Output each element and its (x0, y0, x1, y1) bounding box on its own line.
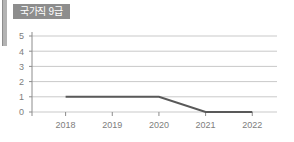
x-axis-tick-label: 2018 (56, 120, 76, 130)
data-series-line (66, 97, 253, 112)
page-title: 국가직 9급 (13, 4, 70, 19)
chart-panel: 국가직 9급 012345 20182019202020212022 (0, 0, 294, 142)
x-axis-tick-label: 2021 (196, 120, 216, 130)
x-axis-labels: 20182019202020212022 (56, 120, 263, 130)
y-axis-tick-label: 4 (19, 47, 24, 57)
x-axis-tick-label: 2022 (242, 120, 262, 130)
line-chart-svg: 012345 20182019202020212022 (0, 24, 294, 142)
y-axis-tick-label: 0 (19, 107, 24, 117)
y-axis-tick-label: 5 (19, 31, 24, 41)
x-axis-tick-label: 2019 (102, 120, 122, 130)
y-axis-tick-label: 1 (19, 92, 24, 102)
gridlines-group (32, 36, 277, 112)
chart-plot-area: 012345 20182019202020212022 (0, 24, 294, 142)
y-axis-tick-label: 3 (19, 62, 24, 72)
x-axis-tick-label: 2020 (149, 120, 169, 130)
y-axis-tick-label: 2 (19, 77, 24, 87)
y-axis-labels: 012345 (19, 31, 24, 117)
